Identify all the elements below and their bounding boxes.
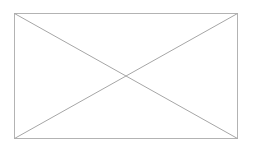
broken-image-placeholder <box>14 13 238 139</box>
page-canvas <box>0 0 253 148</box>
placeholder-graphic <box>14 13 238 139</box>
